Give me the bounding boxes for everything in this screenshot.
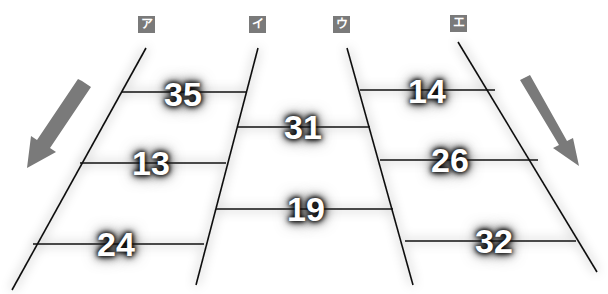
line-u [347, 48, 413, 285]
rung-value: 26 [431, 143, 469, 177]
amidakuji-diagram: ア イ ウ エ 35 13 24 31 19 14 26 32 [0, 0, 608, 294]
rung-value: 13 [132, 146, 170, 180]
line-i [196, 48, 258, 285]
arrow-down-left-icon [27, 79, 91, 168]
rung-value: 24 [97, 227, 135, 261]
column-label-i: イ [249, 16, 266, 33]
column-label-a: ア [138, 16, 155, 33]
arrow-down-right-icon [520, 75, 579, 166]
rung-value: 35 [164, 77, 202, 111]
column-label-e: エ [450, 15, 467, 32]
rung-value: 19 [287, 192, 325, 226]
rung-value: 31 [284, 110, 322, 144]
ladder-lines [0, 0, 608, 294]
rung-value: 32 [475, 224, 513, 258]
column-label-u: ウ [333, 16, 350, 33]
rung-value: 14 [408, 74, 446, 108]
